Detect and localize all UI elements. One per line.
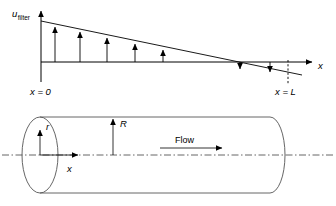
u-filter-axis-label-sub: filter [18,14,31,21]
radius-label: R [120,118,127,129]
axial-axis-label: x [66,163,73,174]
figure-canvas: ufilter x x = 0 x = L [0,0,336,206]
flow-label: Flow [175,135,195,145]
x-axis-label: x [317,60,324,71]
velocity-profile-panel: ufilter x x = 0 x = L [12,8,324,97]
x-equals-zero-label: x = 0 [29,86,52,97]
figure-root: ufilter x x = 0 x = L [0,0,336,206]
pipe-geometry-panel: r x R Flow [2,117,334,193]
velocity-vectors-positive [55,27,163,62]
x-equals-L-label: x = L [274,86,296,97]
u-filter-axis-label: ufilter [12,8,31,21]
